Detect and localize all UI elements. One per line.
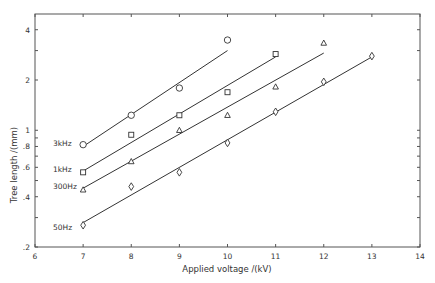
y-axis-label: Tree length /(mm) [9, 127, 19, 204]
data-markers [80, 37, 374, 229]
square-marker [129, 132, 134, 137]
triangle-marker [128, 159, 134, 164]
diamond-marker [129, 183, 134, 191]
square-marker [273, 52, 278, 57]
y-tick-label: 4 [25, 26, 30, 35]
x-tick-label: 12 [319, 252, 329, 261]
circle-marker [224, 37, 230, 43]
diamond-marker [321, 78, 326, 86]
square-marker [177, 113, 182, 118]
y-tick-label: 2 [25, 76, 30, 85]
diamond-marker [177, 169, 182, 177]
x-tick-label: 10 [223, 252, 233, 261]
y-tick-label: .8 [23, 142, 30, 151]
x-tick-label: 7 [81, 252, 86, 261]
series-label-3kHz: 3kHz [53, 139, 72, 148]
series-label-1kHz: 1kHz [53, 165, 72, 174]
fit-line-300Hz [83, 53, 324, 188]
plot-frame [35, 14, 420, 247]
triangle-marker [321, 40, 327, 45]
y-tick-label: .4 [23, 193, 30, 202]
x-tick-label: 6 [33, 252, 38, 261]
series-label-300Hz: 300Hz [53, 182, 77, 191]
x-tick-label: 13 [367, 252, 377, 261]
x-tick-label: 8 [129, 252, 134, 261]
circle-marker [128, 112, 134, 118]
y-tick-label: .2 [23, 243, 30, 252]
circle-marker [176, 85, 182, 91]
x-axis-label: Applied voltage /(kV) [182, 264, 271, 274]
triangle-marker [273, 84, 279, 89]
fit-lines [83, 51, 372, 223]
series-label-50Hz: 50Hz [53, 223, 72, 232]
x-tick-label: 11 [271, 252, 281, 261]
diamond-marker [369, 52, 374, 60]
y-tick-label: 1 [25, 126, 30, 135]
tree-length-chart: 67891011121314.2.4.6.8124 3kHz1kHz300Hz5… [0, 0, 435, 283]
x-tick-label: 9 [177, 252, 182, 261]
circle-marker [80, 141, 86, 147]
diamond-marker [81, 221, 86, 229]
triangle-marker [177, 127, 183, 132]
x-tick-label: 14 [415, 252, 425, 261]
series-labels: 3kHz1kHz300Hz50Hz [53, 139, 77, 232]
triangle-marker [225, 112, 231, 117]
square-marker [225, 90, 230, 95]
diamond-marker [273, 108, 278, 116]
square-marker [81, 170, 86, 175]
y-tick-label: .6 [23, 163, 30, 172]
